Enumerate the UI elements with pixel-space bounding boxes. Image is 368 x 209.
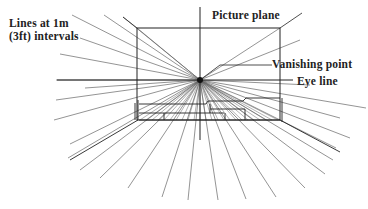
radial-line: [60, 54, 200, 80]
radial-line: [54, 80, 200, 120]
radial-line: [164, 80, 200, 120]
picture-plane-label: Picture plane: [212, 9, 280, 22]
vanishing-point-label: Vanishing point: [272, 58, 352, 71]
lines-interval-label-line2: (3ft) intervals: [9, 30, 79, 43]
lines-interval-label-line1: Lines at 1m: [9, 17, 79, 30]
radial-line: [80, 38, 200, 80]
radial-line: [128, 80, 200, 188]
radial-line: [170, 80, 200, 120]
radial-line: [72, 15, 200, 80]
radial-line: [200, 80, 278, 120]
eye-line-label: Eye line: [297, 75, 338, 88]
radial-line: [68, 80, 200, 158]
radial-line: [200, 80, 246, 199]
lines-interval-label: Lines at 1m (3ft) intervals: [9, 17, 79, 43]
radial-line: [56, 80, 200, 100]
radial-line: [100, 80, 200, 178]
radial-line: [200, 28, 280, 80]
vanishing-point-marker: [197, 77, 203, 83]
radial-line: [104, 15, 200, 80]
radial-line: [146, 80, 200, 120]
radial-line: [200, 80, 248, 120]
radial-line: [85, 80, 200, 88]
radial-line: [137, 28, 200, 80]
